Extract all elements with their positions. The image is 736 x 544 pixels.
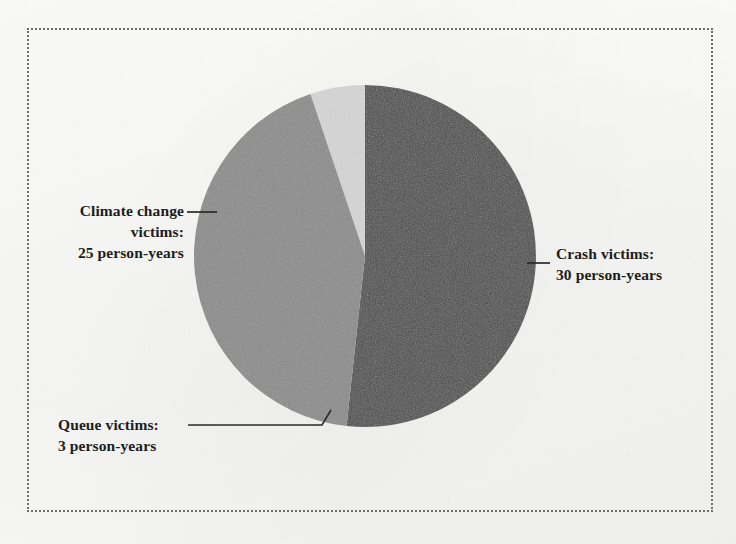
label-queue-victims: Queue victims: 3 person-years (58, 414, 159, 456)
label-climate-line1: Climate change (44, 200, 184, 221)
label-queue-line1: Queue victims: (58, 414, 159, 435)
label-climate-line3: 25 person-years (44, 242, 184, 263)
label-crash-victims: Crash victims: 30 person-years (556, 243, 662, 285)
label-climate-line2: victims: (44, 221, 184, 242)
pie-chart: Climate change victims: 25 person-years … (0, 0, 736, 544)
label-queue-line2: 3 person-years (58, 435, 159, 456)
label-crash-line2: 30 person-years (556, 264, 662, 285)
pie-slice-crash[interactable] (347, 85, 536, 427)
label-crash-line1: Crash victims: (556, 243, 662, 264)
chart-page: Climate change victims: 25 person-years … (0, 0, 736, 544)
label-climate-change-victims: Climate change victims: 25 person-years (44, 200, 184, 263)
